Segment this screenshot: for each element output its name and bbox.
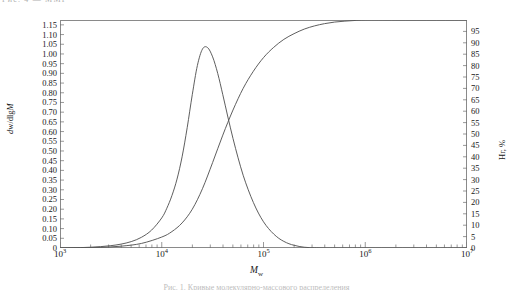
y-axis-right-tick-label: 15 xyxy=(471,210,480,219)
plot-curves xyxy=(60,20,467,248)
y-axis-left-tick-label: 0.30 xyxy=(42,186,57,195)
y-axis-left-tick-labels: 00.050.100.150.200.250.300.350.400.450.5… xyxy=(20,20,57,248)
y-axis-right-tick-label: 85 xyxy=(471,50,480,59)
figure-molecular-weight-distribution: Рис. 4 — ММР 00.050.100.150.200.250.300.… xyxy=(0,0,513,290)
x-axis-tick-label: 107 xyxy=(461,250,473,259)
y-axis-right-tick-label: 80 xyxy=(471,61,480,70)
x-tick-exponent: 7 xyxy=(470,247,473,254)
y-axis-right-tick-label: 10 xyxy=(471,221,480,230)
y-axis-left-tick-label: 0.75 xyxy=(42,98,57,107)
y-axis-left-tick-label: 1.10 xyxy=(42,30,57,39)
y-axis-left-tick-label: 0.80 xyxy=(42,89,57,98)
y-axis-left-tick-label: 0.70 xyxy=(42,108,57,117)
y-axis-right-tick-label: 20 xyxy=(471,198,480,207)
y-axis-right-tick-label: 95 xyxy=(471,27,480,36)
y-axis-left-tick-label: 0.45 xyxy=(42,156,57,165)
y-axis-left-tick-label: 1.00 xyxy=(42,50,57,59)
y-axis-right-tick-label: 5 xyxy=(471,232,475,241)
y-axis-right-tick-label: 50 xyxy=(471,130,480,139)
y-axis-left-tick-label: 0.90 xyxy=(42,69,57,78)
x-axis-title-base: M xyxy=(250,265,258,275)
x-tick-mantissa: 10 xyxy=(461,249,470,259)
y-axis-left-tick-label: 1.05 xyxy=(42,40,57,49)
y-axis-left-tick-label: 0.60 xyxy=(42,127,57,136)
x-tick-mantissa: 10 xyxy=(54,249,63,259)
y-axis-right-tick-label: 25 xyxy=(471,187,480,196)
y-axis-left-tick-label: 0.35 xyxy=(42,176,57,185)
y-axis-left-tick-label: 0.50 xyxy=(42,147,57,156)
x-tick-mantissa: 10 xyxy=(359,249,368,259)
curve-differential-distribution xyxy=(60,47,467,248)
y-axis-right-tick-label: 35 xyxy=(471,164,480,173)
y-axis-left-tick-label: 0.40 xyxy=(42,166,57,175)
x-tick-exponent: 3 xyxy=(63,247,66,254)
y-axis-left-tick-label: 0.65 xyxy=(42,118,57,127)
x-axis-tick-labels: 103104105106107 xyxy=(60,250,467,264)
y-axis-left-tick-label: 0.15 xyxy=(42,215,57,224)
y-axis-left-tick-label: 0.55 xyxy=(42,137,57,146)
clipped-header-text: Рис. 4 — ММР xyxy=(2,0,67,4)
x-axis-tick-label: 104 xyxy=(156,250,168,259)
y-axis-right-tick-label: 30 xyxy=(471,175,480,184)
x-axis-tick-label: 105 xyxy=(257,250,269,259)
x-axis-tick-label: 106 xyxy=(359,250,371,259)
x-tick-exponent: 4 xyxy=(165,247,168,254)
y-axis-left-tick-label: 0.85 xyxy=(42,79,57,88)
y-axis-left-tick-label: 0.05 xyxy=(42,234,57,243)
y-axis-left-tick-label: 1.15 xyxy=(42,21,57,30)
curve-cumulative-distribution xyxy=(60,20,467,248)
y-axis-left-title: dw/dlgM xyxy=(5,103,15,134)
clipped-figure-caption: Рис. 1. Кривые молекулярно-массового рас… xyxy=(0,283,513,290)
y-axis-left-tick-label: 0.25 xyxy=(42,195,57,204)
y-axis-right-tick-label: 90 xyxy=(471,39,480,48)
y-axis-right-tick-label: 45 xyxy=(471,141,480,150)
y-axis-right-tick-label: 65 xyxy=(471,96,480,105)
y-axis-right-tick-labels: 05101520253035404550556065707580859095 xyxy=(471,20,491,248)
x-axis-title: Mw xyxy=(0,265,513,275)
x-tick-mantissa: 10 xyxy=(156,249,165,259)
y-axis-right-tick-label: 55 xyxy=(471,118,480,127)
y-axis-right-tick-label: 75 xyxy=(471,73,480,82)
x-axis-tick-label: 103 xyxy=(54,250,66,259)
y-axis-right-title: Нг, % xyxy=(497,140,507,160)
x-tick-mantissa: 10 xyxy=(257,249,266,259)
y-axis-left-tick-label: 0.95 xyxy=(42,59,57,68)
x-tick-exponent: 6 xyxy=(368,247,371,254)
y-axis-right-tick-label: 60 xyxy=(471,107,480,116)
y-axis-left-tick-label: 0.10 xyxy=(42,224,57,233)
y-axis-right-tick-label: 70 xyxy=(471,84,480,93)
x-axis-title-subscript: w xyxy=(258,270,263,278)
x-tick-exponent: 5 xyxy=(266,247,269,254)
y-axis-right-tick-label: 40 xyxy=(471,153,480,162)
y-axis-left-tick-label: 0.20 xyxy=(42,205,57,214)
